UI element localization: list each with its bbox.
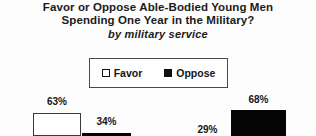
chart-screenshot: { "chart_data": { "type": "bar", "title"… <box>0 0 316 136</box>
bar-value-group-1-favor: 63% <box>33 96 81 107</box>
chart-subtitle: by military service <box>0 27 316 41</box>
chart-legend: Favor Oppose <box>89 58 228 88</box>
legend-swatch-favor-icon <box>102 69 110 77</box>
bar-value-group-1-oppose: 34% <box>82 116 131 127</box>
chart-title-line-1: Favor or Oppose Able-Bodied Young Men <box>0 1 316 14</box>
bar-group-1-oppose <box>82 133 131 136</box>
legend-entry-favor: Favor <box>102 68 143 79</box>
bar-value-group-2-oppose: 68% <box>231 94 286 105</box>
legend-entry-oppose: Oppose <box>164 68 215 79</box>
bar-group-1-favor <box>33 113 81 136</box>
bar-group-2-oppose <box>231 110 286 136</box>
bar-value-group-2-favor: 29% <box>183 124 232 135</box>
chart-title-block: Favor or Oppose Able-Bodied Young Men Sp… <box>0 1 316 41</box>
legend-label-favor: Favor <box>114 68 143 79</box>
legend-label-oppose: Oppose <box>176 68 215 79</box>
legend-swatch-oppose-icon <box>164 69 172 77</box>
chart-title-line-2: Spending One Year in the Military? <box>0 14 316 27</box>
chart-plot-area: 63% 34% 29% 68% <box>0 88 316 136</box>
